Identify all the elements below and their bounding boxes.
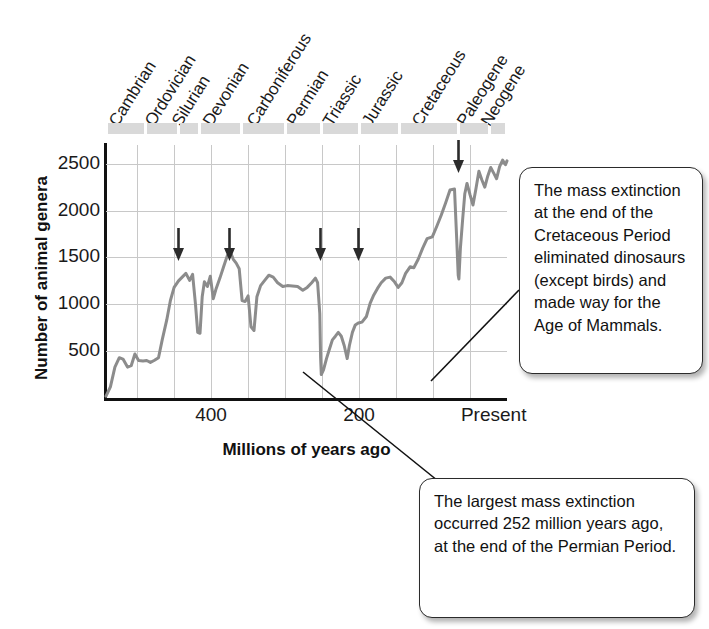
callout-cretaceous-extinction: The mass extinction at the end of the Cr…: [519, 167, 703, 374]
callout-permian-extinction: The largest mass extinction occurred 252…: [419, 478, 695, 618]
